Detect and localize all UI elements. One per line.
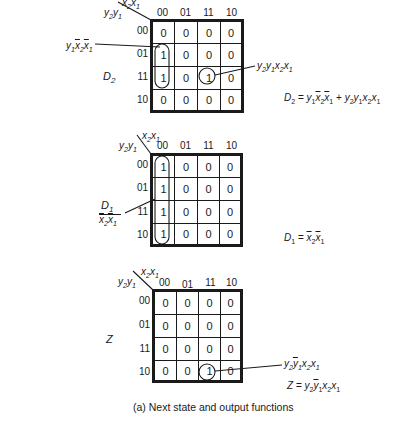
equation-z: Z = y2y1x2x1 xyxy=(287,380,340,393)
kmap-cell: 0 xyxy=(154,360,177,381)
function-name-z: Z xyxy=(106,333,113,345)
kmap-grid: 0 0 0 0 0 0 0 0 0 0 0 0 0 0 1 0 xyxy=(152,289,243,383)
row-label: 00 xyxy=(130,295,150,306)
kmap-cell: 0 xyxy=(176,291,199,315)
kmap-cell: 0 xyxy=(198,314,221,338)
kmap-cell: 0 xyxy=(154,291,177,315)
kmap-cell: 0 xyxy=(176,314,199,338)
term-label: y2y1x2x1 xyxy=(284,358,320,371)
kmap-cell: 0 xyxy=(198,291,221,315)
column-label: 00 xyxy=(153,277,176,288)
kmap-cell: 0 xyxy=(154,314,177,338)
row-label: 10 xyxy=(130,366,150,377)
kmap-cell: 0 xyxy=(220,291,241,315)
kmap-cell: 0 xyxy=(176,360,199,381)
kmap-z: x2x1 y2y1 00 01 11 10 00 01 11 10 0 0 0 … xyxy=(0,0,402,400)
row-label: 01 xyxy=(130,319,150,330)
kmap-cell: 0 xyxy=(154,337,177,361)
kmap-cell: 0 xyxy=(176,337,199,361)
kmap-cell: 0 xyxy=(198,337,221,361)
kmap-cell: 1 xyxy=(198,360,221,381)
figure-caption: (a) Next state and output functions xyxy=(133,401,294,413)
row-variables-label: y2y1 xyxy=(118,276,136,289)
kmap-cell: 0 xyxy=(220,337,241,361)
kmap-cell: 0 xyxy=(220,360,241,381)
kmap-cell: 0 xyxy=(220,314,241,338)
row-label: 11 xyxy=(130,343,150,354)
column-label: 10 xyxy=(220,277,243,288)
column-label: 11 xyxy=(199,277,222,288)
